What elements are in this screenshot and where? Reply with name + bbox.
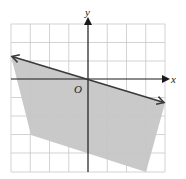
- origin-label: O: [74, 83, 82, 95]
- x-axis-label: x: [170, 73, 176, 85]
- y-axis-label: y: [84, 6, 90, 18]
- coordinate-graph: x y O: [0, 0, 186, 179]
